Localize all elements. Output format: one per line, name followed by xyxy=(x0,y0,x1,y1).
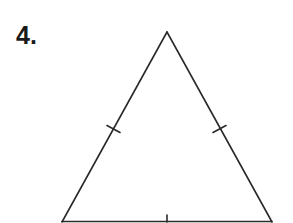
left-side-tick-mark xyxy=(107,126,120,133)
triangle-right-side xyxy=(167,32,272,222)
triangle-diagram xyxy=(0,0,293,223)
triangle-left-side xyxy=(62,32,167,222)
